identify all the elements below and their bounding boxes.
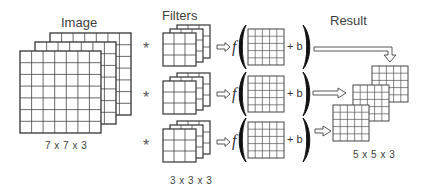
result-label: Result <box>330 13 367 28</box>
bias-label: + b <box>287 87 303 99</box>
result-stack <box>333 66 408 141</box>
result-channel-3 <box>333 105 369 141</box>
filter-dims-label: 3 x 3 x 3 <box>170 175 212 186</box>
convolve-operator: * <box>143 40 149 58</box>
arrow-icon <box>315 126 331 136</box>
arrow-icon <box>217 138 230 147</box>
image-stack <box>20 33 131 133</box>
convolve-operator: * <box>143 89 149 107</box>
filter-2 <box>163 73 210 114</box>
activation-function-label: f <box>232 85 236 103</box>
arrow-icon <box>314 47 396 62</box>
filter-3 <box>163 121 210 162</box>
activation-function-label: f <box>232 38 236 56</box>
filters-label: Filters <box>162 8 197 23</box>
result-dims-label: 5 x 5 x 3 <box>353 149 395 160</box>
image-channel-1 <box>20 51 101 133</box>
activation-function-label: f <box>232 132 236 150</box>
arrow-icon <box>217 90 230 99</box>
convolve-operator: * <box>143 137 149 155</box>
arrow-icon <box>217 43 230 52</box>
filter-1 <box>163 25 210 66</box>
arrow-icon <box>313 88 346 98</box>
image-dims-label: 7 x 7 x 3 <box>45 140 87 151</box>
bias-label: + b <box>287 133 303 145</box>
bias-label: + b <box>287 40 303 52</box>
image-label: Image <box>61 15 97 30</box>
